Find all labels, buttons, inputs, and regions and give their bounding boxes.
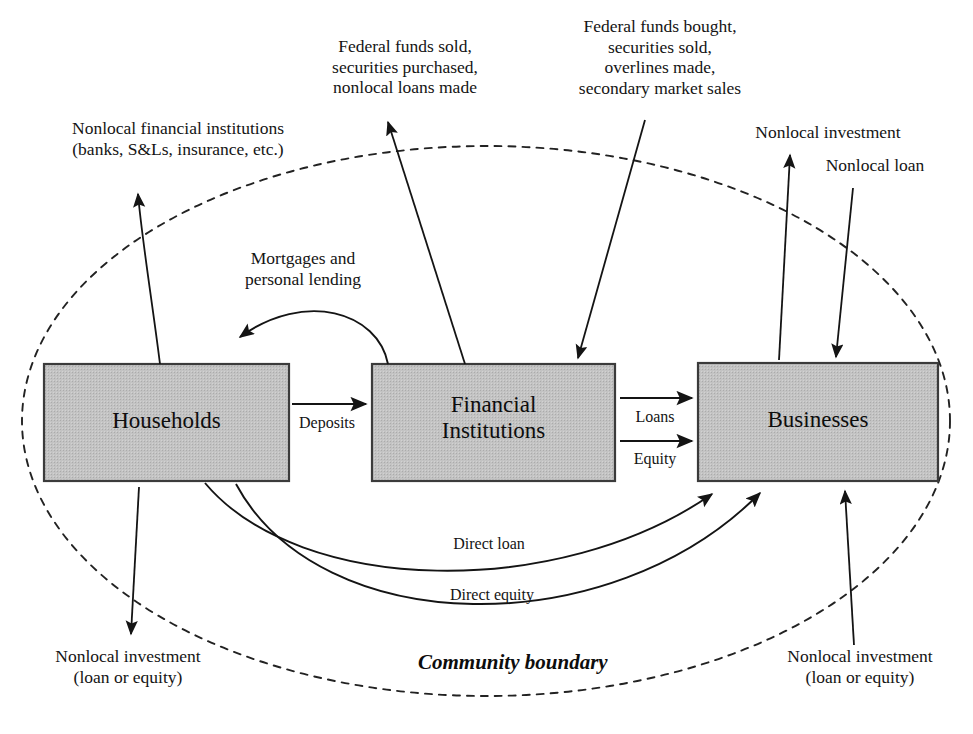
flow-direct-loan-arc	[205, 483, 712, 571]
edge-label-equity: Equity	[620, 450, 690, 469]
edge-label-direct-loan: Direct loan	[429, 535, 549, 554]
diagram-graphics	[0, 0, 973, 734]
edge-label-direct-equity: Direct equity	[422, 586, 562, 605]
edge-label-loans: Loans	[622, 408, 688, 427]
annotation-nonlocal-investment-bottom-left: Nonlocal investment (loan or equity)	[18, 646, 238, 687]
flow-federal-funds-sold-arrow	[388, 122, 465, 364]
flow-nonlocal-loan-arrow	[836, 188, 853, 357]
flow-mortgages-arc	[240, 311, 388, 364]
node-label-businesses: Businesses	[698, 407, 938, 433]
flow-nonlocal-investment-bottom-left-arrow	[131, 487, 139, 634]
edge-label-deposits: Deposits	[285, 414, 369, 433]
community-boundary-label: Community boundary	[418, 650, 608, 675]
annotation-nonlocal-investment-top: Nonlocal investment	[723, 122, 933, 143]
annotation-nonlocal-financial-institutions: Nonlocal financial institutions (banks, …	[28, 118, 328, 159]
diagram-canvas: Households Financial Institutions Busine…	[0, 0, 973, 734]
flow-nonlocal-financial-institutions-arrow	[138, 194, 160, 364]
flow-nonlocal-investment-bottom-right-arrow	[845, 491, 854, 645]
annotation-federal-funds-sold: Federal funds sold, securities purchased…	[300, 36, 510, 98]
annotation-mortgages-and-personal-lending: Mortgages and personal lending	[208, 248, 398, 289]
flow-nonlocal-investment-top-arrow	[779, 155, 790, 360]
annotation-nonlocal-loan-top: Nonlocal loan	[790, 155, 960, 176]
annotation-nonlocal-investment-bottom-right: Nonlocal investment (loan or equity)	[750, 646, 970, 687]
annotation-federal-funds-bought: Federal funds bought, securities sold, o…	[540, 16, 780, 99]
node-label-households: Households	[44, 408, 289, 434]
node-label-financial-institutions: Financial Institutions	[372, 392, 615, 445]
